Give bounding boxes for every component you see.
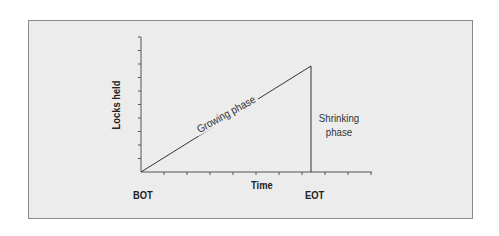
y-axis-label: Locks held — [110, 81, 122, 130]
x-axis-label: Time — [251, 179, 273, 191]
bot-label: BOT — [133, 189, 153, 201]
shrinking-label-line1: Shrinking — [319, 111, 359, 125]
eot-label: EOT — [305, 189, 324, 201]
shrinking-label-line2: phase — [319, 125, 359, 139]
shrinking-phase-label: Shrinking phase — [319, 111, 359, 139]
two-phase-locking-plot — [0, 0, 499, 236]
